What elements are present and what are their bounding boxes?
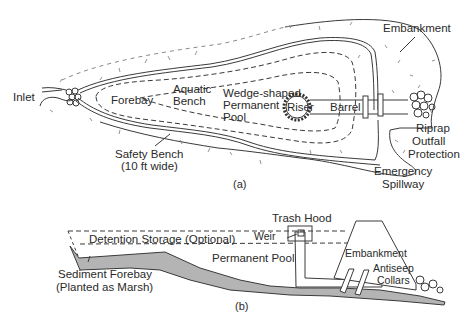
label-detention-storage: Detention Storage (Optional) [89,233,236,245]
safety-bench-arrow [155,134,170,146]
label-safety-bench-2: (10 ft wide) [121,160,178,172]
embankment-arrow [400,37,415,52]
label-embankment-b: Embankment [345,247,407,259]
label-embankment-a: Embankment [383,22,452,34]
label-riprap-2: Outfall [412,135,445,147]
label-weir: Weir [254,230,276,242]
label-forebay: Forebay [111,94,153,106]
label-spillway-2: Spillway [382,178,424,190]
inlet-leader [42,90,62,92]
caption-b: (b) [235,300,248,312]
label-antiseep-2: Collars [377,274,410,286]
caption-a: (a) [233,178,246,190]
inlet-riprap-icon [66,88,81,106]
label-pool-3: Pool [223,111,246,123]
label-aquatic-bench-1: Aquatic [173,83,212,95]
label-barrel: Barrel [330,101,361,113]
outfall-riprap-icon [410,91,435,118]
label-riprap-1: Riprap [416,122,450,134]
antiseep-collar-1 [363,96,368,118]
label-spillway-1: Emergency [374,165,432,177]
label-riser: Riser [287,101,314,113]
outfall-riprap-b-icon [416,276,443,293]
label-aquatic-bench-2: Bench [173,95,206,107]
label-antiseep-1: Antiseep [373,262,414,274]
label-sediment-forebay-2: (Planted as Marsh) [56,281,153,293]
label-safety-bench-1: Safety Bench [115,148,183,160]
label-permanent-pool: Permanent Pool [212,252,294,264]
label-sediment-forebay-1: Sediment Forebay [58,268,152,280]
label-pool-1: Wedge-shaped [223,87,301,99]
label-riprap-3: Protection [408,148,460,160]
label-pool-2: Permanent [223,99,280,111]
inlet-pipe [42,88,66,90]
label-inlet: Inlet [13,91,36,103]
label-trash-hood: Trash Hood [272,212,332,224]
pond-diagram: Inlet Forebay Aquatic Bench Wedge-shaped… [0,0,473,326]
antiseep-collar-2 [378,94,383,116]
